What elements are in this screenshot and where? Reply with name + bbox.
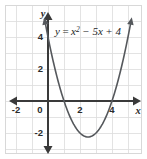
x-tick-label-2: 2 bbox=[77, 104, 82, 115]
y-tick-label-4: 4 bbox=[38, 31, 44, 42]
equation-term3: + 4 bbox=[105, 25, 121, 37]
x-tick-label-neg2: -2 bbox=[12, 104, 20, 115]
quadratic-function-graph: -2 0 2 4 4 2 -2 x y y=x2− 5x+ 4 bbox=[0, 0, 147, 159]
x-tick-label-0: 0 bbox=[37, 104, 42, 115]
y-tick-label-2: 2 bbox=[38, 63, 43, 74]
equation-term2: − 5x bbox=[82, 25, 103, 37]
equation-term1-exponent: 2 bbox=[76, 25, 80, 34]
x-tick-label-4: 4 bbox=[109, 104, 115, 115]
equation-lead: y bbox=[54, 25, 60, 37]
equation-equals: = bbox=[62, 25, 68, 37]
x-axis-label: x bbox=[134, 105, 140, 116]
y-axis-label: y bbox=[39, 8, 46, 19]
y-tick-label-neg2: -2 bbox=[35, 127, 43, 138]
graph-background bbox=[0, 0, 147, 159]
equation-label: y=x2− 5x+ 4 bbox=[54, 25, 121, 38]
graph-canvas: -2 0 2 4 4 2 -2 x y y=x2− 5x+ 4 bbox=[0, 0, 147, 159]
